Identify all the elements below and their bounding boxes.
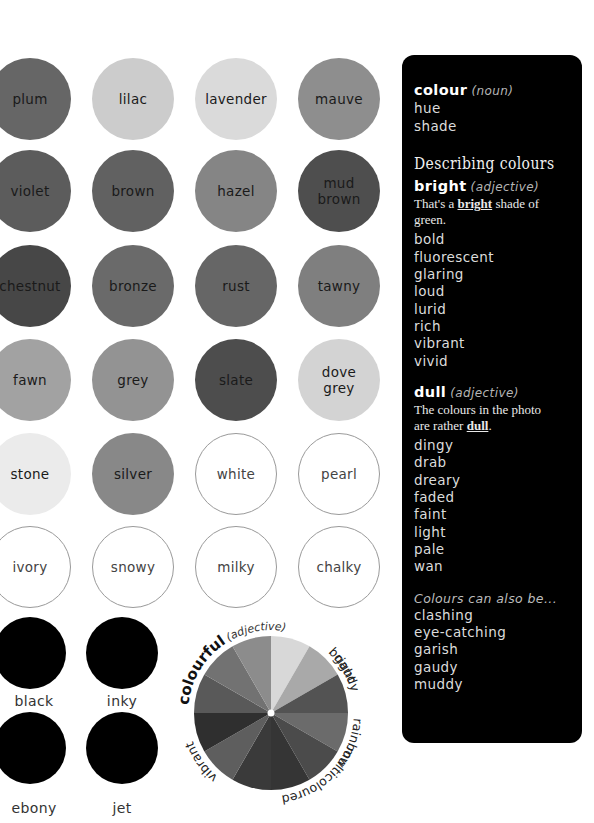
swatch-stone: stone [0,433,71,515]
swatch-label: plum [12,91,47,107]
swatch-lavender: lavender [195,58,277,140]
swatch-jet [86,712,158,784]
list-item: bold [414,231,570,248]
swatch-label: snowy [111,559,155,575]
list-item: gaudy [414,659,570,676]
colourful-wheel: colourful (adjective) bright gaudy rainb… [180,600,380,823]
bright-synonyms: bold fluorescent glaring loud lurid rich… [414,231,570,369]
swatch-label: pearl [321,466,357,482]
list-item: vivid [414,353,570,370]
swatch-slate: slate [195,339,277,421]
list-item: hue [414,100,570,117]
swatch-label: dove grey [322,364,356,396]
swatch-label: white [217,466,255,482]
swatch-chestnut: chestnut [0,245,71,327]
swatch-label: hazel [217,183,254,199]
swatch-mud-brown: mud brown [298,150,380,232]
swatch-grey: grey [92,339,174,421]
swatch-label-black: black [0,693,79,709]
section-title: Describing colours [414,155,542,172]
list-item: lurid [414,301,570,318]
list-item: drab [414,454,570,471]
swatch-fawn: fawn [0,339,71,421]
swatch-label: lavender [205,91,267,107]
swatch-mauve: mauve [298,58,380,140]
wheel-center-dot [268,710,275,717]
list-item: fluorescent [414,249,570,266]
entry-dull: dull(adjective) The colours in the photo… [414,384,570,576]
swatch-label: chalky [316,559,361,575]
swatch-label-jet: jet [77,800,167,816]
swatch-label: violet [10,183,49,199]
swatch-pearl: pearl [298,433,380,515]
swatch-brown: brown [92,150,174,232]
example-sentence-dull: The colours in the photoare rather dull. [414,402,570,434]
swatch-bronze: bronze [92,245,174,327]
list-item: dingy [414,437,570,454]
example-sentence-bright: That's a bright shade of green. [414,196,570,228]
list-item: rich [414,318,570,335]
headword-dull: dull [414,384,446,400]
swatch-label: silver [114,466,152,482]
swatch-label: stone [11,466,50,482]
swatch-inky [86,617,158,689]
swatch-label: chestnut [0,278,61,294]
list-item: vibrant [414,335,570,352]
headword-bright: bright [414,178,467,194]
swatch-label: grey [117,372,148,388]
list-item: dreary [414,472,570,489]
swatch-rust: rust [195,245,277,327]
swatch-plum: plum [0,58,71,140]
swatch-label: bronze [109,278,157,294]
list-item: muddy [414,676,570,693]
swatch-silver: silver [92,433,174,515]
swatch-label: milky [217,559,254,575]
describing-colours-panel: colour(noun) hue shade Describing colour… [402,55,582,743]
swatch-label: slate [219,372,253,388]
swatch-label: fawn [13,372,47,388]
pos-adjective: (adjective) [450,386,519,400]
list-item: clashing [414,607,570,624]
swatch-white: white [195,433,277,515]
headword-colour: colour [414,82,467,98]
list-item: wan [414,558,570,575]
swatch-label: lilac [119,91,147,107]
colour-wheel-graphic: colourful (adjective) bright gaudy rainb… [180,600,380,823]
swatch-hazel: hazel [195,150,277,232]
swatch-black [0,617,66,689]
pos-noun: (noun) [471,84,513,98]
swatch-chalky: chalky [298,526,380,608]
swatch-tawny: tawny [298,245,380,327]
dull-synonyms: dingy drab dreary faded faint light pale… [414,437,570,575]
swatch-label: brown [111,183,154,199]
entry-also: Colours can also be... clashing eye-catc… [414,590,570,694]
swatch-label: mud brown [317,175,360,207]
swatch-ebony [0,712,66,784]
swatch-label: ivory [12,559,47,575]
pos-adjective: (adjective) [471,180,540,194]
swatch-label: tawny [318,278,361,294]
list-item: shade [414,118,570,135]
list-item: garish [414,641,570,658]
also-intro: Colours can also be... [414,590,570,607]
list-item: faint [414,506,570,523]
swatch-snowy: snowy [92,526,174,608]
also-list: clashing eye-catching garish gaudy muddy [414,607,570,693]
swatch-violet: violet [0,150,71,232]
entry-colour: colour(noun) hue shade [414,82,570,135]
list-item: loud [414,283,570,300]
list-item: light [414,524,570,541]
list-item: eye-catching [414,624,570,641]
swatch-label: rust [222,278,250,294]
swatch-label-inky: inky [77,693,167,709]
swatch-ivory: ivory [0,526,71,608]
swatch-lilac: lilac [92,58,174,140]
list-item: pale [414,541,570,558]
swatch-milky: milky [195,526,277,608]
list-item: faded [414,489,570,506]
swatch-label-ebony: ebony [0,800,79,816]
list-item: glaring [414,266,570,283]
swatch-dove-grey: dove grey [298,339,380,421]
entry-bright: bright(adjective) That's a bright shade … [414,178,570,370]
swatch-label: mauve [315,91,363,107]
